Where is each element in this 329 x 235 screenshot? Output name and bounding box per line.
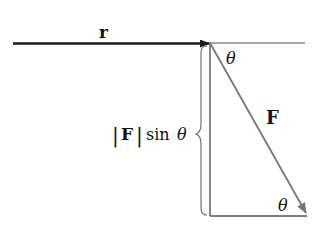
curly-brace	[196, 46, 207, 215]
theta-top-label: θ	[226, 49, 236, 68]
abs-bar-left: |	[112, 123, 119, 148]
F-vector-arrow	[210, 43, 306, 213]
F-label: F	[266, 107, 279, 128]
abs-F-label: F	[121, 124, 133, 144]
abs-bar-right: |	[136, 123, 143, 148]
theta-bottom-label: θ	[278, 196, 288, 215]
sin-theta-label: θ	[177, 125, 187, 144]
torque-diagram: r F θ θ | F | sin θ	[0, 0, 329, 235]
sin-label: sin	[146, 125, 170, 144]
magnitude-sin-theta-label: | F | sin θ	[112, 123, 187, 148]
r-label: r	[99, 22, 109, 42]
